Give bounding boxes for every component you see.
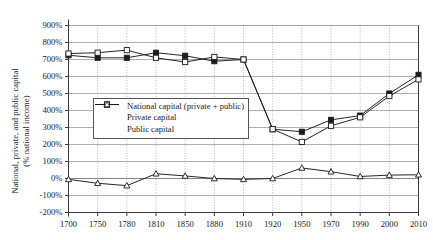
legend-item-label: National capital (private + public): [127, 101, 244, 112]
legend-item-label: Public capital: [127, 124, 174, 135]
chart-legend: National capital (private + public)Priva…: [93, 98, 249, 139]
legend-open-triangle-icon: [98, 124, 124, 135]
y-tick-label: 600%: [42, 72, 62, 81]
y-tick-label: 400%: [42, 106, 62, 115]
y-tick-label: 900%: [42, 21, 62, 30]
y-tick-label: -200%: [40, 208, 63, 217]
y-tick-label: 100%: [42, 157, 62, 166]
x-tick-label: 2010: [402, 220, 433, 229]
y-tick-label: 500%: [42, 89, 62, 98]
y-tick-label: 300%: [42, 123, 62, 132]
y-tick-label: 200%: [42, 140, 62, 149]
y-tick-label: 700%: [42, 55, 62, 64]
y-tick-label: 800%: [42, 38, 62, 47]
chart-figure: National, private, and public capital (%…: [0, 0, 433, 240]
y-tick-label: -100%: [40, 191, 63, 200]
legend-item-label: Private capital: [127, 112, 176, 123]
legend-item: Public capital: [98, 124, 244, 135]
legend-item: Private capital: [98, 112, 244, 123]
y-tick-label: 0%: [51, 174, 62, 183]
legend-open-square-icon: [98, 113, 124, 124]
